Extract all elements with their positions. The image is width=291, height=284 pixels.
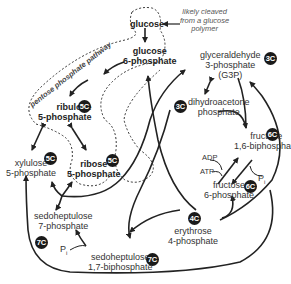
node-glyceraldehyde-3-phosphate: glyceraldehyde 3-phosphate (G3P) xyxy=(200,50,261,80)
node-label: 1,6-biphosphate xyxy=(234,141,291,151)
atp-label: ATP xyxy=(200,167,214,176)
phosphate-label: Pi xyxy=(258,173,265,185)
carbon-badge: 5C xyxy=(78,100,91,113)
node-label: glucose xyxy=(130,19,164,29)
node-label: 6-phosphate xyxy=(123,56,177,66)
node-label: 1,7-biphosphate xyxy=(88,262,153,272)
pi-subscript: i xyxy=(66,250,67,256)
carbon-badge: 3C xyxy=(174,100,187,113)
cleavage-note: likely cleaved from a glucose polymer xyxy=(180,8,229,34)
carbon-badge: 4C xyxy=(188,212,201,225)
node-dihydroacetone-phosphate: dihydroacetone phosphate xyxy=(188,97,250,117)
pi-subscript: i xyxy=(264,179,265,185)
carbon-badge: 7C xyxy=(146,253,159,266)
node-label: 4-phosphate xyxy=(168,236,218,246)
node-label: 5-phosphate xyxy=(67,169,121,179)
note-line: polymer xyxy=(180,25,229,34)
node-label: fructose xyxy=(234,131,291,141)
node-label: 5-phosphate xyxy=(38,112,92,122)
node-erythrose-4-phosphate: erythrose 4-phosphate xyxy=(168,226,218,246)
carbon-badge: 6C xyxy=(244,180,257,193)
carbon-badge: 3C xyxy=(264,52,277,65)
node-label: dihydroacetone xyxy=(188,97,250,107)
node-fructose-1-6-biphosphate: fructose 1,6-biphosphate xyxy=(234,131,291,151)
node-label: glucose xyxy=(123,46,177,56)
node-label: 3-phosphate xyxy=(200,60,261,70)
node-sedoheptulose-1-7-biphosphate: sedoheptulose 1,7-biphosphate xyxy=(88,252,153,272)
node-label: phosphate xyxy=(188,107,250,117)
phosphate-label: Pi xyxy=(60,244,67,256)
node-label: erythrose xyxy=(168,226,218,236)
carbon-badge: 7C xyxy=(35,236,48,249)
node-label: sedoheptulose xyxy=(88,252,153,262)
adp-label: ADP xyxy=(202,153,217,162)
node-sedoheptulose-7-phosphate: sedoheptulose 7-phosphate xyxy=(34,211,93,231)
node-label: (G3P) xyxy=(200,70,261,80)
carbon-badge: 5C xyxy=(44,152,57,165)
node-glucose: glucose xyxy=(130,19,164,29)
node-label: sedoheptulose xyxy=(34,211,93,221)
carbon-badge: 5C xyxy=(106,154,119,167)
node-label: 5-phosphate xyxy=(6,168,56,178)
carbon-badge: 6C xyxy=(266,128,279,141)
node-glucose-6-phosphate: glucose 6-phosphate xyxy=(123,46,177,66)
node-label: glyceraldehyde xyxy=(200,50,261,60)
node-label: 7-phosphate xyxy=(34,221,93,231)
